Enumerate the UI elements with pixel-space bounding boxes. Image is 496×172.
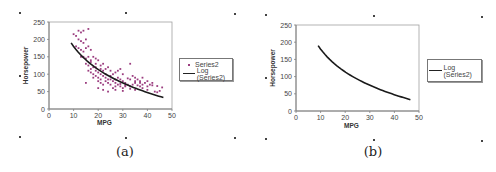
scatter-point [151,84,153,86]
x-tick-label: 40 [391,114,399,121]
chart-a-legend: Series2 Log (Series2) [179,58,233,81]
x-axis-title: MPG [344,122,359,129]
scatter-point [147,80,149,82]
selection-handle [265,14,267,16]
caption-a: (a) [105,144,145,159]
y-tick-label: 100 [33,71,45,78]
scatter-point [97,72,99,74]
selection-handle [125,12,127,14]
scatter-point [87,45,89,47]
scatter-point [115,72,117,74]
scatter-point [124,85,126,87]
scatter-point [129,63,131,65]
y-tick-label: 250 [33,19,45,26]
legend-item-log-trend: Log (Series2) [180,69,232,78]
scatter-point [83,30,85,32]
scatter-point [95,63,97,65]
scatter-point [110,79,112,81]
x-tick-label: 30 [366,114,374,121]
x-tick-label: 20 [341,114,349,121]
scatter-point [102,63,104,65]
y-tick-label: 100 [280,73,292,80]
scatter-point [107,66,109,68]
selection-handle [19,136,21,138]
selection-handle [234,13,236,15]
x-tick-label: 50 [415,114,423,121]
scatter-point [117,84,119,86]
scatter-point [117,70,119,72]
scatter-point [100,73,102,75]
scatter-point [142,77,144,79]
plot-area [49,22,172,109]
scatter-point [85,82,87,84]
scatter-point [149,84,151,86]
scatter-point [97,77,99,79]
y-tick-label: 150 [33,53,45,60]
scatter-point [102,75,104,77]
scatter-point [132,84,134,86]
scatter-point [127,77,129,79]
scatter-point [139,85,141,87]
scatter-point [78,30,80,32]
scatter-point [105,77,107,79]
scatter-point [87,65,89,67]
y-tick-label: 50 [37,88,45,95]
y-axis-title: Horsepower [269,49,277,87]
scatter-point [90,59,92,61]
scatter-point [119,83,121,85]
x-tick-label: 30 [119,112,127,119]
scatter-point [92,56,94,58]
scatter-point [115,82,117,84]
scatter-point [147,89,149,91]
y-tick-label: 250 [280,22,292,29]
selection-handle [234,137,236,139]
scatter-point [83,51,85,53]
y-tick-label: 200 [33,36,45,43]
scatter-point [134,82,136,84]
x-tick-label: 10 [317,114,325,121]
scatter-point [137,79,139,81]
scatter-point [154,91,156,93]
scatter-point [156,85,158,87]
scatter-point [119,68,121,70]
scatter-point [142,84,144,86]
legend-label: Log (Series2) [444,64,482,78]
selection-handle [125,137,127,139]
scatter-point [100,79,102,81]
chart-panel-b: 05010015020025001020304050MPGHorsepower … [248,0,496,172]
scatter-point [147,85,149,87]
scatter-point [92,77,94,79]
scatter-point [137,84,139,86]
scatter-point [85,47,87,49]
scatter-point [110,84,112,86]
scatter-point [97,80,99,82]
scatter-point [95,58,97,60]
scatter-point [105,80,107,82]
scatter-point [142,87,144,89]
scatter-point [102,89,104,91]
scatter-point [134,89,136,91]
scatter-point [129,79,131,81]
scatter-point [87,70,89,72]
x-tick-label: 20 [94,112,102,119]
selection-handle [373,15,375,17]
scatter-point [90,49,92,51]
scatter-point [78,39,80,41]
scatter-marker-icon [188,64,190,66]
scatter-point [75,35,77,37]
scatter-point [97,87,99,89]
selection-handle [265,138,267,140]
caption-b: (b) [353,144,393,159]
trendline-icon [183,73,195,75]
selection-handle [19,12,21,14]
selection-handle [481,140,483,142]
x-tick-label: 40 [144,112,152,119]
scatter-point [85,39,87,41]
scatter-point [122,90,124,92]
scatter-point [80,49,82,51]
scatter-point [80,40,82,42]
scatter-point [73,33,75,35]
y-tick-label: 200 [280,39,292,46]
x-tick-label: 0 [47,112,51,119]
scatter-point [97,59,99,61]
